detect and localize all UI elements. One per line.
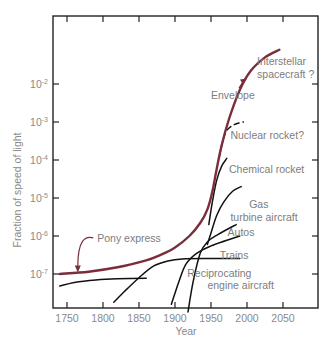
annotation-label: spacecraft ? [257, 68, 314, 80]
x-axis-title: Year [175, 325, 197, 337]
annotation-label: Chemical rocket [229, 163, 304, 175]
annotation-label: Envelope [211, 89, 255, 101]
annotation-label: Pony express [97, 232, 161, 244]
annotation-label: Reciprocating [187, 267, 251, 279]
pony-express-arrow [78, 237, 93, 266]
series-envelope [60, 50, 280, 274]
annotation-label: engine aircraft [207, 279, 274, 291]
y-tick-label: 10-3 [30, 116, 48, 128]
y-tick-label: 10-6 [30, 230, 48, 242]
y-tick-label: 10-5 [30, 192, 48, 204]
annotation-label: turbine aircraft [230, 211, 297, 223]
y-tick-label: 10-2 [30, 78, 48, 90]
x-tick-label: 1900 [163, 312, 187, 324]
annotation-label: Gas [249, 198, 268, 210]
y-axis-title: Fraction of speed of light [11, 132, 23, 247]
x-tick-labels: 1750180018501900195020002050 [55, 312, 295, 324]
x-tick-label: 2050 [271, 312, 295, 324]
y-tick-labels: 10-710-610-510-410-310-2 [30, 78, 48, 280]
annotation-label: Interstellar [257, 55, 307, 67]
x-tick-label: 1850 [127, 312, 151, 324]
x-tick-label: 1800 [91, 312, 115, 324]
annotation-label: Trains [220, 249, 249, 261]
x-tick-label: 2000 [235, 312, 259, 324]
speed-history-chart: 1750180018501900195020002050 10-710-610-… [0, 0, 327, 349]
x-tick-label: 1950 [199, 312, 223, 324]
y-tick-label: 10-7 [30, 268, 48, 280]
y-tick-label: 10-4 [30, 154, 48, 166]
x-tick-label: 1750 [55, 312, 79, 324]
annotation-label: Autos [228, 226, 255, 238]
annotation-label: Nuclear rocket? [230, 129, 304, 141]
arrowhead-icon [240, 78, 247, 84]
